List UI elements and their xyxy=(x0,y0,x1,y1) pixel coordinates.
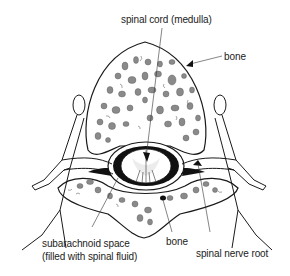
label-subarachnoid-line2: (filled with spinal fluid) xyxy=(42,251,137,262)
vertebral-body xyxy=(86,42,206,154)
label-subarachnoid-line1: subarachnoid space xyxy=(42,238,130,249)
label-spinal-nerve-root: spinal nerve root xyxy=(196,248,268,259)
spinal-canal xyxy=(108,142,184,190)
vertebra-diagram xyxy=(0,0,290,276)
label-bone-bottom: bone xyxy=(166,236,188,247)
label-spinal-cord: spinal cord (medulla) xyxy=(121,14,212,25)
label-bone-top: bone xyxy=(224,51,246,62)
